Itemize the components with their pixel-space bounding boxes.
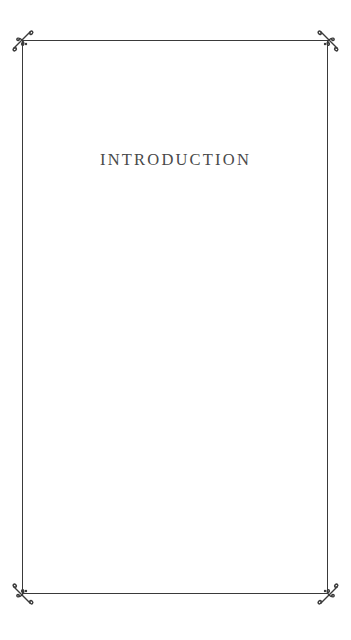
decorative-frame-border	[22, 40, 328, 594]
corner-flourish-icon	[315, 581, 341, 607]
corner-flourish-icon	[10, 581, 36, 607]
chapter-title: INTRODUCTION	[0, 150, 351, 170]
corner-flourish-icon	[315, 28, 341, 54]
book-page: INTRODUCTION	[0, 0, 351, 640]
corner-flourish-icon	[10, 28, 36, 54]
